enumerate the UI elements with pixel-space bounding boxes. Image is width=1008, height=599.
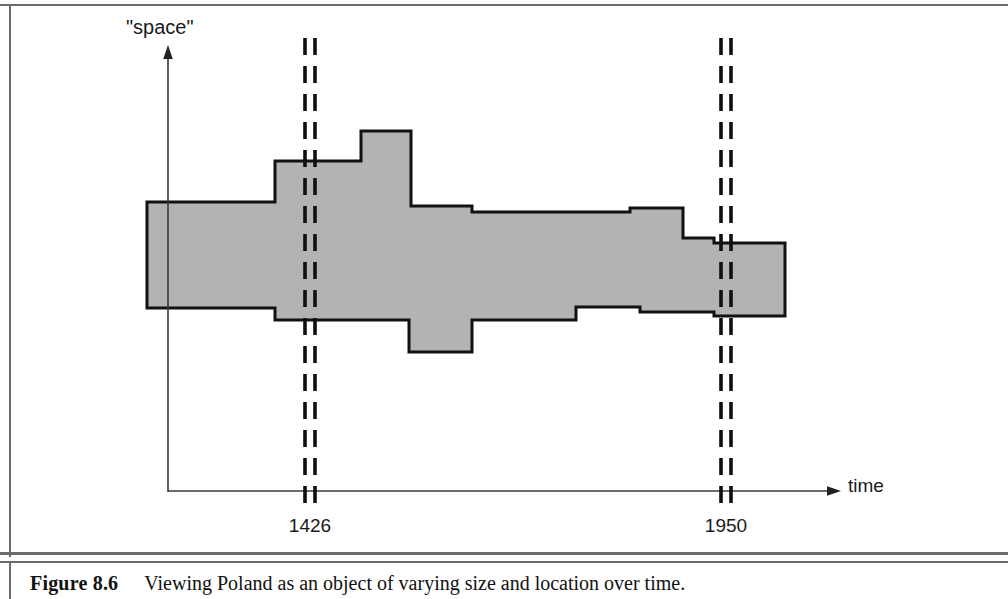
tick-label-1426: 1426 <box>250 515 370 537</box>
figure-frame-bottom-rule-1 <box>0 552 1008 555</box>
figure-caption-number: Figure 8.6 <box>30 572 118 594</box>
x-axis-arrowhead <box>827 486 841 496</box>
tick-label-1950: 1950 <box>666 515 786 537</box>
figure-frame-bottom-rule-2 <box>0 561 1008 563</box>
figure-caption-text: Viewing Poland as an object of varying s… <box>144 572 685 594</box>
figure-caption: Figure 8.6Viewing Poland as an object of… <box>30 572 990 595</box>
caption-left-rule <box>9 561 11 599</box>
poland-extent-region <box>147 131 785 352</box>
x-axis-label: time <box>848 475 884 497</box>
poland-space-time-chart <box>0 0 1008 552</box>
y-axis-arrowhead <box>163 45 173 59</box>
y-axis-label: "space" <box>126 16 194 39</box>
figure-page: "space" time 1426 1950 Figure 8.6Viewing… <box>0 0 1008 599</box>
x-axis <box>168 486 841 496</box>
